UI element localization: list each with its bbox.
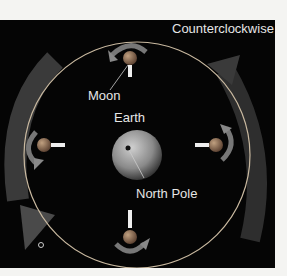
earth-icon [112,130,162,180]
moon-top [108,46,146,90]
earth-label: Earth [114,110,145,125]
direction-label: Counterclockwise [172,21,274,36]
north-pole-label: North Pole [136,186,197,201]
moon-left [28,132,65,170]
diagram-panel: Counterclockwise Moon Earth North Pole [0,20,275,268]
orbit-diagram [0,20,275,268]
north-pole-dot [126,146,131,151]
moon-right [195,124,232,160]
large-rotation-arrow-left [15,60,55,250]
moon-bottom [116,210,150,251]
moon-label: Moon [88,88,121,103]
